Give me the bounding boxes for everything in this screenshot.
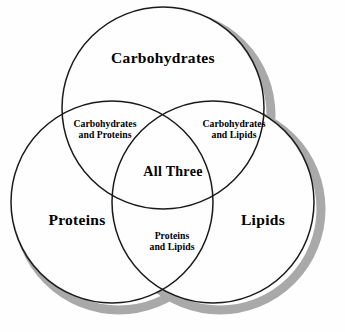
venn-diagram: Carbohydrates Proteins Lipids Carbohydra… <box>0 0 345 332</box>
all-three-label: All Three <box>118 164 228 179</box>
carbohydrates-label: Carbohydrates <box>83 50 243 67</box>
lipids-label: Lipids <box>208 212 318 229</box>
carbohydrates-and-lipids-label: Carbohydrates and Lipids <box>180 118 288 140</box>
proteins-and-lipids-label: Proteins and Lipids <box>118 230 226 252</box>
proteins-label: Proteins <box>22 212 132 229</box>
carbohydrates-and-proteins-label: Carbohydrates and Proteins <box>51 118 159 140</box>
